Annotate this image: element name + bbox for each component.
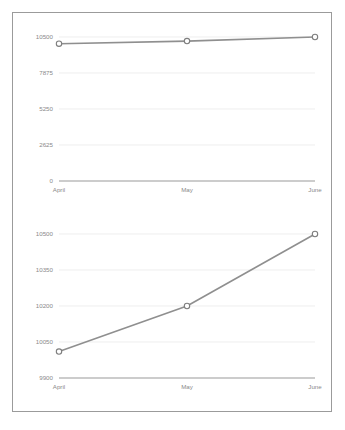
chart-bottom-container: 990010050102001035010500AprilMayJune — [13, 216, 333, 404]
x-tick-label: June — [308, 383, 322, 390]
chart-top-svg[interactable]: 026255250787510500AprilMayJune — [13, 19, 333, 207]
data-point-marker[interactable] — [56, 41, 61, 46]
chart-card: 026255250787510500AprilMayJune 990010050… — [12, 12, 332, 412]
y-tick-label: 9900 — [39, 374, 53, 381]
data-point-marker[interactable] — [184, 303, 189, 308]
y-tick-label: 2625 — [39, 141, 53, 148]
x-tick-label: April — [53, 383, 65, 390]
y-tick-label: 10050 — [36, 338, 54, 345]
y-tick-label: 10500 — [36, 230, 54, 237]
chart-top-container: 026255250787510500AprilMayJune — [13, 19, 333, 207]
y-tick-label: 10500 — [36, 33, 54, 40]
x-tick-label: May — [181, 383, 194, 390]
data-point-marker[interactable] — [312, 231, 317, 236]
y-tick-label: 0 — [50, 177, 54, 184]
data-point-marker[interactable] — [312, 34, 317, 39]
series-line — [59, 234, 315, 352]
y-tick-label: 10350 — [36, 266, 54, 273]
x-tick-label: May — [181, 186, 194, 193]
y-tick-label: 5250 — [39, 105, 53, 112]
x-tick-label: April — [53, 186, 65, 193]
screenshot-root: 026255250787510500AprilMayJune 990010050… — [0, 0, 345, 430]
y-tick-label: 7875 — [39, 69, 53, 76]
data-point-marker[interactable] — [184, 38, 189, 43]
y-tick-label: 10200 — [36, 302, 54, 309]
chart-bottom-svg[interactable]: 990010050102001035010500AprilMayJune — [13, 216, 333, 404]
data-point-marker[interactable] — [56, 349, 61, 354]
x-tick-label: June — [308, 186, 322, 193]
